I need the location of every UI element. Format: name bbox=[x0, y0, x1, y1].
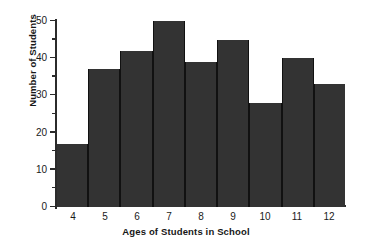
y-tick-major bbox=[50, 206, 57, 208]
histogram-bar bbox=[57, 144, 88, 207]
y-tick-label: 30 bbox=[36, 90, 47, 100]
histogram-bar bbox=[217, 40, 249, 207]
x-tick-label: 4 bbox=[57, 211, 89, 222]
x-axis-title: Ages of Students in School bbox=[0, 226, 372, 237]
x-tick-label: 10 bbox=[249, 211, 281, 222]
histogram-bar bbox=[314, 84, 345, 207]
histogram-bar bbox=[120, 51, 152, 207]
x-tick-label: 9 bbox=[217, 211, 249, 222]
histogram-bar bbox=[249, 103, 281, 207]
y-tick-major bbox=[50, 94, 57, 96]
x-axis-tick-labels: 456789101112 bbox=[57, 211, 345, 222]
histogram-bar bbox=[153, 21, 185, 207]
histogram-bar bbox=[88, 69, 120, 207]
x-tick-label: 11 bbox=[281, 211, 313, 222]
x-tick-label: 8 bbox=[185, 211, 217, 222]
y-tick-label: 0 bbox=[41, 202, 47, 212]
y-tick-major bbox=[50, 168, 57, 170]
y-tick-label: 50 bbox=[36, 16, 47, 26]
y-tick-label: 40 bbox=[36, 53, 47, 63]
x-tick-label: 12 bbox=[313, 211, 345, 222]
y-tick-major bbox=[50, 20, 57, 22]
x-tick-label: 7 bbox=[153, 211, 185, 222]
histogram-chart: Number of Students 01020304050 456789101… bbox=[0, 0, 372, 246]
y-tick-label: 20 bbox=[36, 128, 47, 138]
x-tick-label: 5 bbox=[89, 211, 121, 222]
histogram-bar bbox=[282, 58, 314, 207]
histogram-bar bbox=[185, 62, 217, 207]
bar-series bbox=[57, 21, 345, 207]
plot-area: 01020304050 bbox=[57, 21, 345, 207]
y-tick-major bbox=[50, 57, 57, 59]
y-tick-major bbox=[50, 131, 57, 133]
y-tick-label: 10 bbox=[36, 165, 47, 175]
x-tick-label: 6 bbox=[121, 211, 153, 222]
